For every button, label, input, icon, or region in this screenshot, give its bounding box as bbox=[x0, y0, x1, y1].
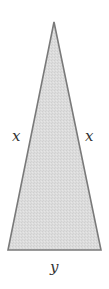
right-side-label: x bbox=[85, 127, 94, 145]
left-side-label: x bbox=[12, 127, 21, 145]
triangle-figure: x x y bbox=[0, 0, 109, 289]
base-label: y bbox=[49, 258, 59, 276]
